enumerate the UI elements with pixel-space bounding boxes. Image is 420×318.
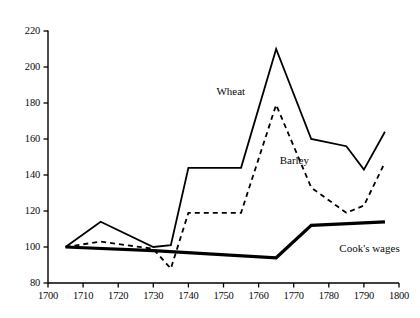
x-tick-label: 1760 [239, 290, 279, 301]
y-tick-label: 200 [6, 61, 40, 72]
price-index-line-chart: 8010012014016018020022017001710172017301… [0, 0, 420, 318]
y-tick-label: 80 [6, 277, 40, 288]
x-tick-label: 1800 [379, 290, 419, 301]
x-tick-label: 1700 [28, 290, 68, 301]
x-tick-label: 1750 [204, 290, 244, 301]
series-line-barley [66, 105, 385, 269]
y-tick-label: 180 [6, 97, 40, 108]
y-tick-label: 220 [6, 25, 40, 36]
x-tick-label: 1710 [63, 290, 103, 301]
y-tick-label: 160 [6, 133, 40, 144]
chart-plot-area [0, 0, 420, 318]
x-tick-label: 1720 [98, 290, 138, 301]
series-label-cook-s-wages: Cook's wages [339, 242, 399, 254]
x-tick-label: 1790 [344, 290, 384, 301]
series-line-wheat [66, 49, 385, 247]
x-tick-label: 1770 [274, 290, 314, 301]
x-tick-label: 1780 [309, 290, 349, 301]
y-tick-label: 140 [6, 169, 40, 180]
series-label-wheat: Wheat [216, 85, 245, 97]
series-label-barley: Barley [280, 154, 309, 166]
x-tick-label: 1740 [168, 290, 208, 301]
y-tick-label: 120 [6, 205, 40, 216]
y-tick-label: 100 [6, 241, 40, 252]
x-tick-label: 1730 [133, 290, 173, 301]
